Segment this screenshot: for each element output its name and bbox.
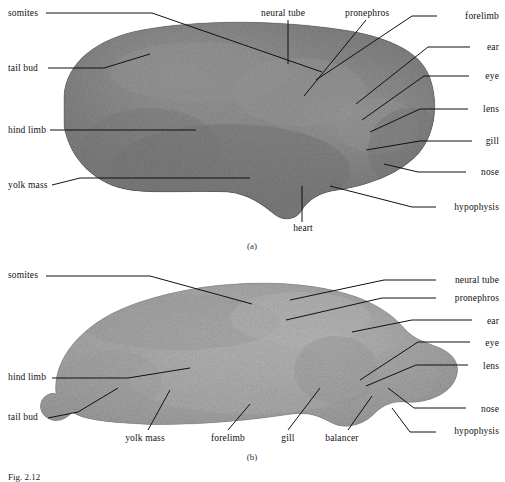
label-nose-b: nose: [441, 404, 499, 414]
label-tail-bud-b: tail bud: [8, 412, 38, 422]
panel-b-leader-lines: [0, 262, 505, 482]
label-lens-b: lens: [441, 361, 499, 371]
label-hypophysis-a: hypophysis: [435, 202, 499, 212]
label-gill-a: gill: [441, 136, 499, 146]
label-yolk-mass-b: yolk mass: [116, 433, 174, 443]
label-tail-bud-a: tail bud: [8, 63, 38, 73]
leader-tail-bud-b: [48, 388, 118, 418]
label-pronephros-b: pronephros: [435, 293, 499, 303]
panel-a-caption: (a): [232, 241, 272, 251]
leader-gill-b: [288, 388, 320, 430]
leader-yolk-mass-b: [148, 390, 170, 430]
leader-forelimb-b: [228, 404, 250, 430]
leader-hind-limb-b: [52, 368, 190, 378]
leader-somites-b: [46, 276, 252, 304]
leader-hypophysis-b: [392, 408, 436, 432]
label-eye-b: eye: [441, 338, 499, 348]
label-heart-a: heart: [285, 223, 321, 233]
label-hind-limb-a: hind limb: [8, 125, 46, 135]
leader-balancer-b: [348, 396, 372, 430]
label-forelimb-a: forelimb: [441, 11, 499, 21]
leader-tail-bud-a: [48, 54, 150, 68]
label-pronephros-a: pronephros: [345, 8, 389, 18]
label-lens-a: lens: [441, 104, 499, 114]
label-forelimb-b: forelimb: [200, 433, 256, 443]
leader-pronephros-a: [304, 20, 366, 96]
leader-forelimb-a: [316, 16, 437, 80]
label-balancer-b: balancer: [316, 433, 368, 443]
label-neural-tube-a: neural tube: [261, 8, 305, 18]
panel-b-caption: (b): [232, 452, 272, 462]
label-somites-b: somites: [8, 270, 38, 280]
label-yolk-mass-a: yolk mass: [8, 180, 48, 190]
label-ear-b: ear: [441, 316, 499, 326]
figure-caption: Fig. 2.12: [8, 472, 40, 482]
label-hind-limb-b: hind limb: [8, 372, 46, 382]
leader-pronephros-b: [286, 298, 436, 320]
label-somites-a: somites: [8, 8, 38, 18]
leader-yolk-mass-a: [52, 178, 250, 185]
label-gill-b: gill: [272, 433, 304, 443]
label-hypophysis-b: hypophysis: [435, 426, 499, 436]
label-nose-a: nose: [441, 167, 499, 177]
label-eye-a: eye: [441, 71, 499, 81]
label-ear-a: ear: [441, 42, 499, 52]
label-neural-tube-b: neural tube: [435, 275, 499, 285]
leader-neural-tube-b: [290, 280, 436, 300]
panel-a-leader-lines: [0, 0, 505, 250]
leader-somites-a: [46, 13, 322, 72]
leader-hypophysis-a: [330, 186, 436, 207]
